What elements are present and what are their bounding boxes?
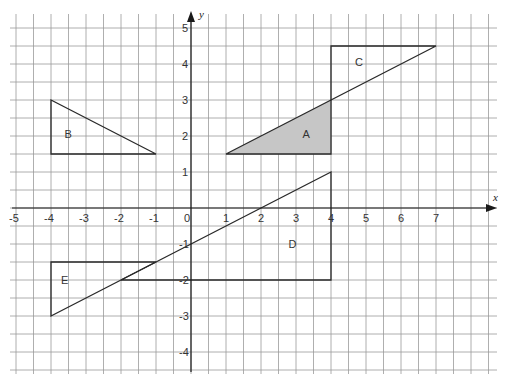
y-tick-label: -4 xyxy=(179,346,189,358)
shape-label-e: E xyxy=(61,274,68,286)
y-tick-label: -2 xyxy=(179,274,189,286)
x-tick-label: 7 xyxy=(433,212,439,224)
x-tick-label: 5 xyxy=(363,212,369,224)
grid-canvas: x y -5-4-3-2-10123456754321-1-2-3-4 ABCD… xyxy=(0,0,511,385)
x-tick-label: 4 xyxy=(328,212,334,224)
x-tick-label: -5 xyxy=(9,212,19,224)
y-tick-label: 2 xyxy=(182,130,188,142)
x-tick-label: 3 xyxy=(293,212,299,224)
y-tick-label: 3 xyxy=(182,94,188,106)
x-tick-label: -3 xyxy=(79,212,89,224)
x-axis-label: x xyxy=(492,191,498,203)
y-tick-label: -3 xyxy=(179,310,189,322)
y-axis-arrowhead-icon xyxy=(187,11,195,22)
y-tick-label: -1 xyxy=(179,238,189,250)
y-axis-label: y xyxy=(198,8,204,20)
shape-label-a: A xyxy=(303,128,311,140)
x-axis-arrowhead-icon xyxy=(486,204,497,212)
coordinate-grid-diagram: x y -5-4-3-2-10123456754321-1-2-3-4 ABCD… xyxy=(0,0,511,385)
x-tick-label: 6 xyxy=(398,212,404,224)
y-tick-label: 1 xyxy=(182,166,188,178)
shape-label-b: B xyxy=(65,128,72,140)
shape-label-c: C xyxy=(355,56,363,68)
x-tick-label: -2 xyxy=(114,212,124,224)
grid-lines xyxy=(10,14,497,374)
shape-label-d: D xyxy=(289,238,297,250)
x-tick-label: -4 xyxy=(44,212,54,224)
y-tick-label: 4 xyxy=(182,58,188,70)
x-tick-label: 1 xyxy=(223,212,229,224)
x-tick-label: -1 xyxy=(149,212,159,224)
shape-labels: ABCDE xyxy=(61,56,363,286)
x-tick-label: 2 xyxy=(258,212,264,224)
x-tick-label: 0 xyxy=(184,212,190,224)
y-tick-label: 5 xyxy=(182,22,188,34)
